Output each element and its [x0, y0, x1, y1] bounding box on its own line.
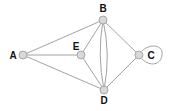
node-b	[99, 16, 107, 24]
label-a: A	[9, 50, 16, 61]
label-e: E	[73, 41, 80, 52]
graph-diagram: A B C D E	[0, 0, 170, 111]
edge-b-d-left	[100, 20, 104, 90]
edge-b-c	[103, 20, 139, 55]
edge-a-b	[23, 20, 103, 55]
node-a	[19, 51, 27, 59]
node-e	[77, 51, 85, 59]
label-b: B	[99, 3, 106, 14]
edge-a-d	[23, 55, 104, 90]
edge-e-b	[81, 20, 103, 55]
edge-d-c	[104, 55, 139, 90]
edge-b-d-right	[103, 20, 107, 90]
node-d	[100, 86, 108, 94]
label-c: C	[147, 50, 154, 61]
label-d: D	[100, 95, 107, 106]
node-c	[135, 51, 143, 59]
